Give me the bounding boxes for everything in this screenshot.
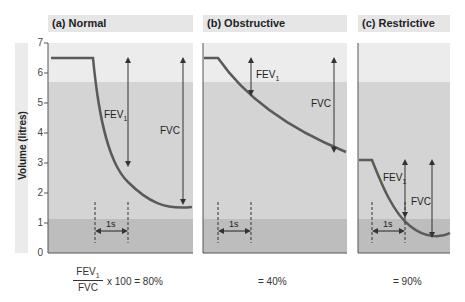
panel-a-plot [44,43,193,253]
chart-canvas [0,0,465,302]
panel-b-1s-label: 1s [229,219,239,229]
panel-b-fvc-label: FVC [311,98,331,109]
panel-a-ratio: x 100 = 80% [107,276,163,287]
panel-a-fvc-label: FVC [160,125,180,136]
panel-c-plot [358,43,450,253]
panel-c-fev1-label: FEV1 [383,172,406,185]
formula-fraction: FEV1 FVC [73,266,103,293]
panel-c-1s-label: 1s [383,219,393,229]
panel-a-1s-label: 1s [106,219,116,229]
panel-b-fev1-label: FEV1 [256,69,279,82]
panel-c-ratio: = 90% [393,276,422,287]
panel-c-fvc-label: FVC [411,196,431,207]
panel-b-ratio: = 40% [258,276,287,287]
panel-a-fev1-label: FEV1 [104,109,127,122]
